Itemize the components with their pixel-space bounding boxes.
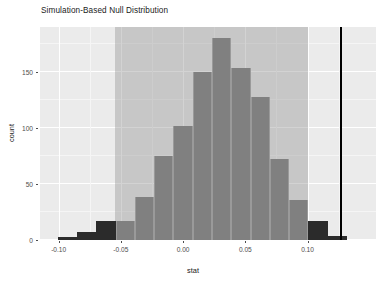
chart-container: Simulation-Based Null Distribution 05010… bbox=[0, 0, 386, 281]
x-tick-label: 0.00 bbox=[177, 246, 190, 253]
x-tick-label: -0.10 bbox=[51, 246, 66, 253]
x-tick-label: -0.05 bbox=[113, 246, 128, 253]
x-axis: -0.10-0.050.000.050.10 bbox=[0, 0, 386, 281]
x-axis-title: stat bbox=[0, 266, 386, 275]
y-axis-title: count bbox=[7, 124, 16, 142]
x-tick-label: 0.05 bbox=[239, 246, 252, 253]
x-tick-mark bbox=[245, 241, 246, 243]
x-tick-mark bbox=[183, 241, 184, 243]
x-tick-mark bbox=[121, 241, 122, 243]
x-tick-mark bbox=[308, 241, 309, 243]
x-tick-mark bbox=[59, 241, 60, 243]
x-tick-label: 0.10 bbox=[301, 246, 314, 253]
